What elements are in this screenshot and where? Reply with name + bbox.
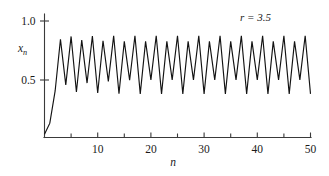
x-tick-label-40: 40 — [252, 143, 264, 155]
x-axis-title: n — [170, 156, 176, 168]
logistic-map-plot: 0.51.01020304050 xn n r = 3.5 — [0, 0, 329, 176]
parameter-annotation: r = 3.5 — [240, 11, 271, 23]
x-tick-label-30: 30 — [198, 143, 210, 155]
x-tick-label-10: 10 — [92, 143, 104, 155]
y-axis-title-subscript: n — [23, 48, 27, 57]
series-logistic-map — [45, 36, 311, 135]
axes-group — [44, 14, 311, 138]
tick-label-group: 0.51.01020304050 — [21, 15, 316, 155]
y-tick-label-0.5: 0.5 — [21, 74, 36, 86]
y-axis-title: xn — [17, 42, 27, 57]
figure-container: 0.51.01020304050 xn n r = 3.5 — [0, 0, 329, 176]
x-tick-label-50: 50 — [305, 143, 317, 155]
y-tick-label-1.0: 1.0 — [21, 15, 36, 27]
x-tick-label-20: 20 — [145, 143, 157, 155]
